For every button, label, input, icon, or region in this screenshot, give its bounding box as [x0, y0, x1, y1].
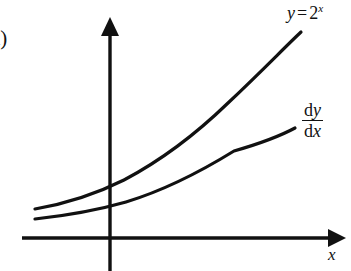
exponential-derivative-figure: a) y=2x dy dx x: [0, 0, 351, 271]
derivative-numerator: dy: [302, 101, 323, 121]
curve-y-equals-2-to-the-x: [35, 32, 301, 209]
derivative-numerator-variable: y: [313, 100, 321, 120]
derivative-denominator-d: d: [304, 121, 313, 141]
curve-label-main-base: 2: [309, 3, 318, 23]
derivative-numerator-d: d: [304, 100, 313, 120]
curve-label-main-variable: y: [287, 3, 295, 23]
derivative-denominator: dx: [302, 121, 323, 140]
curve-label-main-equals: =: [295, 3, 309, 23]
curve-label-dy-dx: dy dx: [302, 101, 323, 140]
plot-canvas: [0, 0, 351, 271]
curve-label-main-exponent: x: [318, 2, 323, 14]
curve-label-y-equals-2-to-the-x: y=2x: [287, 4, 323, 22]
derivative-fraction: dy dx: [302, 101, 323, 140]
y-axis-arrowhead-icon: [101, 17, 119, 36]
curve-dy-dx: [35, 128, 295, 219]
axis-label-x: x: [328, 246, 336, 263]
derivative-denominator-variable: x: [313, 121, 321, 141]
part-label: a): [0, 28, 7, 49]
